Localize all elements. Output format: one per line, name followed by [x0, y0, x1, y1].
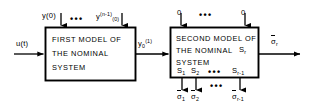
first-model-line-1: FIRST MODEL OF [52, 36, 121, 43]
ic-last-suffix: (0) [112, 16, 119, 22]
initial-condition-ellipsis: ••• [70, 15, 84, 24]
bottom-output-ellipsis: ••• [210, 82, 224, 91]
intermediate-signal-label: y0(1) [138, 40, 152, 48]
intermediate-sup: (1) [145, 38, 152, 44]
initial-condition-last-label: y(n-1)(0) [96, 13, 119, 21]
corner-state-sub: r [244, 49, 246, 55]
state-label-s1: S1 [177, 67, 185, 75]
bottom-out-2-sub: 2 [196, 96, 199, 102]
zero-input-ellipsis: ••• [199, 11, 213, 20]
state-sr1-sub: r-1 [237, 70, 244, 76]
state-label-s2: S2 [191, 67, 199, 75]
second-model-line-1: SECOND MODEL OF [176, 35, 256, 42]
bottom-output-3-label: σr-1 [232, 93, 244, 101]
initial-condition-first-label: y(0) [42, 12, 56, 20]
first-model-line-3: SYSTEM [52, 64, 86, 71]
bottom-out-3-sub: r-1 [237, 96, 244, 102]
input-u-label: u(t) [16, 40, 28, 48]
state-s2-sub: 2 [196, 70, 199, 76]
state-label-sr-1: Sr-1 [232, 67, 244, 75]
first-model-line-2: THE NOMINAL [52, 50, 109, 57]
ic-last-sup: (n-1) [100, 11, 112, 17]
second-model-corner-state-label: Sr [239, 46, 246, 54]
block-diagram-figure: FIRST MODEL OF THE NOMINAL SYSTEM SECOND… [0, 0, 310, 108]
state-s1-sub: 1 [182, 70, 185, 76]
output-sigma-r-label: σr [271, 38, 278, 46]
zero-input-left-label: 0 [177, 9, 181, 17]
bottom-output-1-label: σ1 [177, 93, 185, 101]
second-model-line-2: THE NOMINAL [176, 47, 233, 54]
state-row-ellipsis: ••• [208, 68, 222, 77]
zero-input-right-label: 0 [241, 9, 245, 17]
bottom-output-2-label: σ2 [191, 93, 199, 101]
output-sigma-sub: r [276, 41, 278, 47]
bottom-out-1-sub: 1 [182, 96, 185, 102]
